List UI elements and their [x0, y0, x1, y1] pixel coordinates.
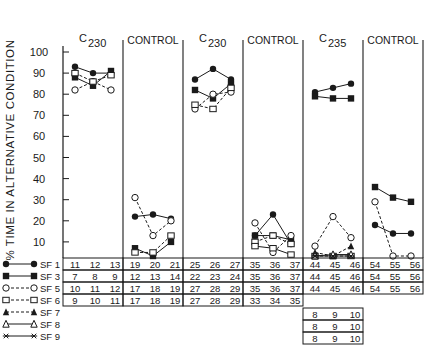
- data-point-sf3: [192, 87, 198, 93]
- data-point-sf1: [210, 66, 216, 72]
- session-number: 17: [130, 283, 141, 294]
- y-tick-label: 20: [33, 215, 45, 227]
- session-number: 35: [290, 295, 301, 306]
- legend-marker-icon: [31, 285, 37, 291]
- y-tick-label: 30: [33, 194, 45, 206]
- session-number: 46: [350, 271, 361, 282]
- session-number: 11: [70, 259, 80, 270]
- data-point-sf6b: [252, 243, 258, 248]
- panel-title: C230: [199, 32, 226, 49]
- session-number: 44: [310, 283, 321, 294]
- session-number: 45: [330, 271, 341, 282]
- session-number: 19: [170, 283, 181, 294]
- session-number: 9: [72, 295, 77, 306]
- session-number: 24: [230, 271, 241, 282]
- session-number: 37: [290, 283, 301, 294]
- session-number: 56: [410, 271, 421, 282]
- data-point-sf1: [330, 85, 336, 91]
- data-point-sf1: [90, 70, 96, 76]
- data-point-sf3: [168, 239, 174, 245]
- session-number: 54: [370, 271, 381, 282]
- session-number: 46: [350, 259, 361, 270]
- session-number: 18: [150, 283, 161, 294]
- legend-marker-icon: [31, 261, 37, 267]
- session-number: 45: [330, 259, 341, 270]
- y-tick-label: 100: [30, 46, 48, 58]
- data-point-sf6: [132, 250, 138, 255]
- session-number: 55: [390, 259, 401, 270]
- session-number: 45: [330, 283, 341, 294]
- data-point-sf3: [408, 199, 414, 205]
- session-number: 9: [112, 271, 117, 282]
- session-number: 11: [90, 283, 100, 294]
- session-number: 14: [170, 271, 181, 282]
- panel-title: C235: [319, 32, 346, 49]
- session-number: 35: [250, 283, 261, 294]
- session-number: 29: [230, 295, 241, 306]
- legend-marker-icon: [3, 297, 9, 302]
- legend-marker-icon: [31, 297, 37, 302]
- series-line-sf5: [315, 217, 351, 247]
- session-number: 7: [72, 271, 77, 282]
- data-point-sf7: [348, 242, 354, 249]
- data-point-sf3: [252, 232, 258, 238]
- session-number: 34: [270, 295, 281, 306]
- session-number: 8: [312, 321, 317, 332]
- data-point-sf5: [252, 220, 258, 226]
- data-point-sf3: [312, 93, 318, 99]
- session-number: 10: [90, 295, 101, 306]
- data-point-sf3: [390, 194, 396, 200]
- session-number: 8: [312, 309, 317, 320]
- session-number: 56: [410, 259, 421, 270]
- legend-label: SF 8: [40, 319, 60, 330]
- data-point-sf5: [132, 194, 138, 200]
- data-point-sf5: [348, 234, 354, 240]
- y-tick-label: 50: [33, 152, 45, 164]
- legend-marker-icon: [31, 273, 37, 279]
- data-point-sf1: [192, 76, 198, 82]
- data-point-sf5: [108, 87, 114, 93]
- data-point-sf6: [168, 233, 174, 238]
- session-number: 29: [230, 283, 241, 294]
- data-point-sf3: [330, 95, 336, 101]
- session-number: 10: [350, 333, 361, 344]
- y-tick-label: 80: [33, 88, 45, 100]
- session-number: 27: [190, 295, 201, 306]
- legend-marker-icon: [3, 285, 9, 291]
- session-number: 35: [250, 259, 261, 270]
- panel-title: CONTROL: [367, 34, 418, 46]
- data-point-sf6: [288, 241, 294, 246]
- legend-label: SF 1: [40, 259, 60, 270]
- session-number: 37: [290, 259, 301, 270]
- data-point-sf6: [150, 250, 156, 255]
- panel-title: CONTROL: [247, 34, 298, 46]
- session-number: 26: [210, 259, 221, 270]
- panel-title: CONTROL: [127, 34, 178, 46]
- data-point-sf6: [210, 106, 216, 111]
- session-number: 19: [170, 295, 181, 306]
- panel-title: C230: [79, 32, 106, 49]
- data-point-sf1: [132, 213, 138, 219]
- session-number: 46: [350, 283, 361, 294]
- session-number: 9: [332, 321, 337, 332]
- data-point-sf6: [90, 79, 96, 84]
- chart: % TIME IN ALTERNATIVE CONDITION102030405…: [0, 0, 436, 347]
- session-number: 18: [150, 295, 161, 306]
- session-number: 13: [110, 259, 121, 270]
- session-number: 55: [390, 271, 401, 282]
- data-point-sf3: [372, 184, 378, 190]
- data-point-sf6b: [288, 252, 294, 257]
- data-point-sf5: [150, 232, 156, 238]
- session-number: 10: [350, 309, 361, 320]
- y-tick-label: 60: [33, 130, 45, 142]
- session-number: 56: [410, 283, 421, 294]
- legend-label: SF 6: [40, 295, 60, 306]
- session-number: 17: [130, 295, 141, 306]
- legend-label: SF 9: [40, 331, 60, 342]
- session-number: 10: [350, 321, 361, 332]
- session-number: 27: [190, 283, 201, 294]
- session-number: 36: [270, 271, 281, 282]
- session-number: 12: [90, 259, 101, 270]
- session-number: 54: [370, 259, 381, 270]
- y-tick-label: 10: [33, 236, 45, 248]
